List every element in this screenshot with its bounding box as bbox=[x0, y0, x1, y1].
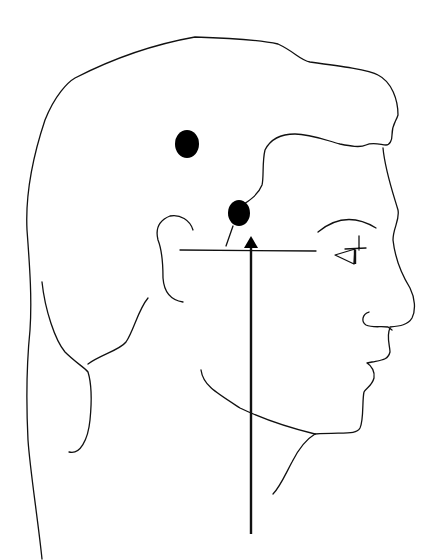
eye bbox=[335, 249, 355, 264]
nostril bbox=[363, 312, 392, 330]
ear bbox=[157, 216, 193, 302]
lower-marker bbox=[228, 200, 250, 226]
face-profile bbox=[383, 148, 414, 327]
neck-muscle bbox=[88, 298, 148, 364]
head-outline bbox=[27, 37, 398, 559]
lips-chin bbox=[315, 328, 390, 434]
upper-marker bbox=[175, 130, 199, 158]
arrow-head-icon bbox=[244, 236, 258, 248]
temple-line bbox=[226, 226, 233, 246]
eye-lash bbox=[345, 236, 366, 250]
back-neck bbox=[42, 282, 91, 452]
jaw-line bbox=[201, 370, 315, 434]
neck-front bbox=[273, 434, 315, 494]
eyebrow bbox=[318, 220, 376, 232]
horizontal-reference-line bbox=[180, 250, 316, 251]
head-profile-diagram bbox=[0, 0, 448, 560]
